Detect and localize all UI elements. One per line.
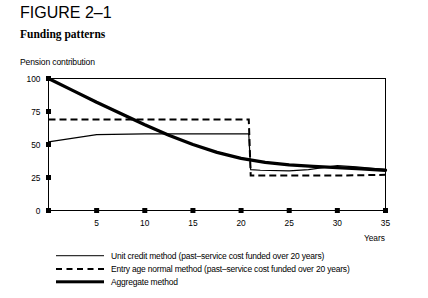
y-tick-marker — [46, 142, 51, 147]
legend-item: Aggregate method — [56, 275, 396, 288]
x-tick-marker — [383, 208, 388, 213]
legend-line-sample — [56, 264, 104, 274]
x-tick-label: 5 — [94, 218, 99, 228]
y-tick-label: 0 — [36, 206, 41, 216]
legend-item-label: Entry age normal method (past–service co… — [111, 264, 350, 274]
y-tick-label: 100 — [27, 74, 41, 84]
legend-item-label: Aggregate method — [111, 277, 178, 287]
y-tick-label: 25 — [31, 173, 41, 183]
legend-item: Unit credit method (past–service cost fu… — [56, 249, 396, 262]
y-tick-marker — [46, 109, 51, 114]
x-tick-marker — [46, 208, 51, 213]
x-axis-label: Years — [364, 233, 385, 243]
x-tick-marker — [239, 208, 244, 213]
legend-line-sample — [56, 277, 104, 287]
x-tick-marker — [142, 208, 147, 213]
x-tick-label: 20 — [236, 218, 246, 228]
chart-legend: Unit credit method (past–service cost fu… — [56, 249, 396, 288]
y-axis-ticks: 0255075100 — [27, 74, 51, 216]
x-tick-marker — [287, 208, 292, 213]
x-tick-label: 30 — [333, 218, 343, 228]
axis-frame — [49, 79, 386, 211]
legend-item-label: Unit credit method (past–service cost fu… — [111, 251, 324, 261]
x-tick-marker — [94, 208, 99, 213]
x-tick-label: 35 — [381, 218, 391, 228]
legend-line-sample — [56, 251, 104, 261]
y-tick-label: 75 — [31, 107, 41, 117]
legend-item: Entry age normal method (past–service co… — [56, 262, 396, 275]
x-tick-marker — [190, 208, 195, 213]
x-tick-label: 25 — [285, 218, 295, 228]
y-tick-label: 50 — [31, 140, 41, 150]
y-tick-marker — [46, 175, 51, 180]
x-tick-label: 15 — [188, 218, 198, 228]
x-tick-marker — [335, 208, 340, 213]
chart-series-layer — [49, 79, 386, 176]
series-line-aggregate — [49, 79, 386, 171]
x-tick-label: 10 — [140, 218, 150, 228]
